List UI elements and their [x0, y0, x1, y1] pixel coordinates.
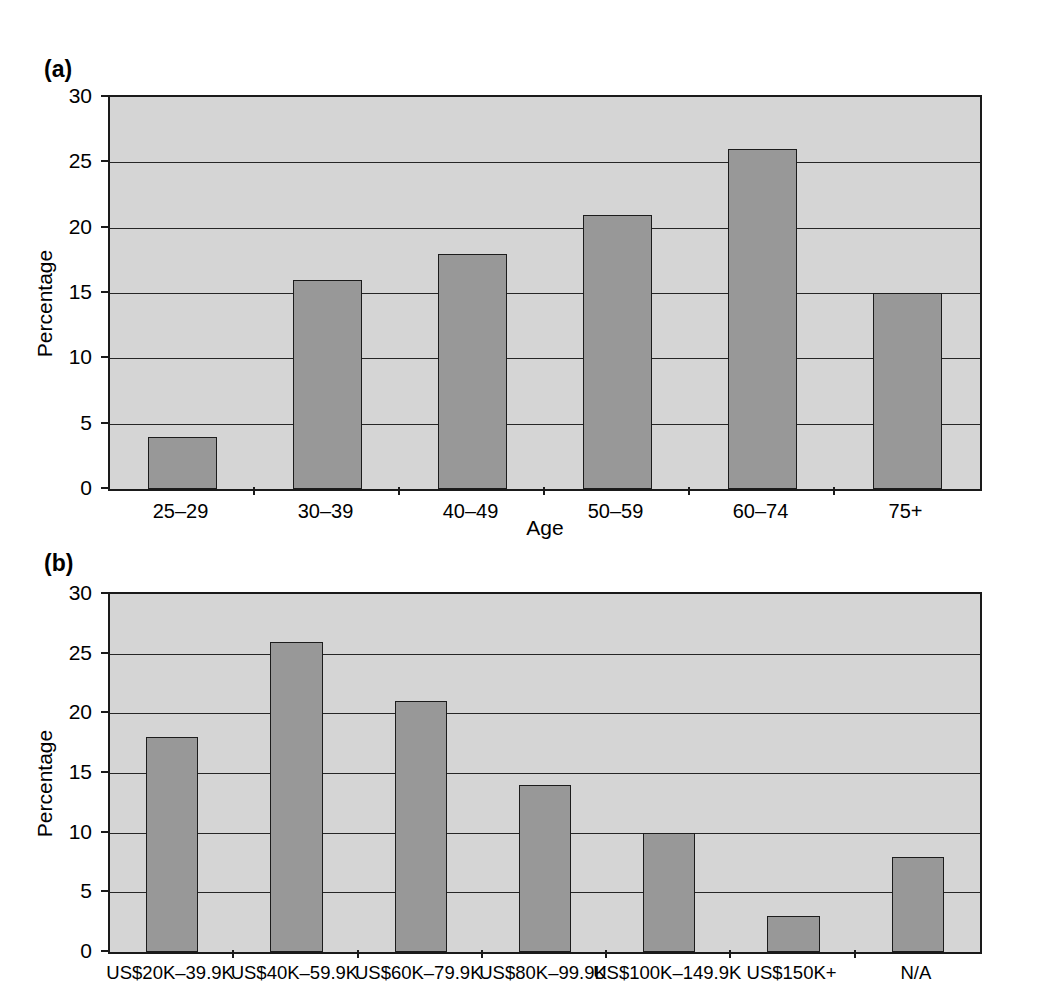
x-tick-label: US$100K–149.9K — [593, 964, 741, 983]
y-tick-label: 15 — [44, 281, 92, 302]
x-tick-mark — [481, 950, 483, 958]
y-tick-mark — [101, 831, 108, 833]
x-tick-label: 50–59 — [588, 501, 644, 521]
bar — [148, 437, 216, 489]
bar — [583, 215, 651, 489]
x-tick-mark — [688, 487, 690, 495]
x-tick-label: US$60K–79.9K — [355, 964, 483, 983]
bar — [293, 280, 361, 489]
y-tick-mark — [101, 356, 108, 358]
bar — [767, 916, 819, 952]
y-tick-label: 25 — [44, 150, 92, 171]
x-tick-mark — [398, 487, 400, 495]
y-tick-mark — [101, 291, 108, 293]
x-tick-mark — [232, 950, 234, 958]
x-tick-label: 30–39 — [298, 501, 354, 521]
y-tick-mark — [101, 950, 108, 952]
panel-a-label: (a) — [44, 58, 72, 81]
bar — [519, 785, 571, 952]
x-tick-label: US$20K–39.9K — [106, 964, 234, 983]
bar — [146, 737, 198, 952]
panel-b-bars — [110, 594, 980, 952]
y-tick-label: 15 — [44, 761, 92, 782]
x-tick-mark — [854, 950, 856, 958]
y-tick-mark — [101, 652, 108, 654]
y-tick-label: 25 — [44, 641, 92, 662]
x-tick-mark — [729, 950, 731, 958]
y-tick-mark — [101, 890, 108, 892]
y-tick-mark — [101, 592, 108, 594]
y-tick-label: 20 — [44, 701, 92, 722]
y-tick-mark — [101, 487, 108, 489]
y-tick-label: 5 — [44, 880, 92, 901]
y-tick-mark — [101, 95, 108, 97]
x-tick-label: 75+ — [889, 501, 923, 521]
x-tick-label: N/A — [900, 964, 931, 983]
panel-a: (a) Percentage Age 05101520253025–2930–3… — [0, 0, 1048, 555]
y-tick-label: 30 — [44, 85, 92, 106]
x-tick-label: 40–49 — [443, 501, 499, 521]
y-tick-label: 30 — [44, 582, 92, 603]
y-tick-mark — [101, 771, 108, 773]
bar — [270, 642, 322, 952]
bar — [438, 254, 506, 489]
panel-b: (b) Percentage 051015202530US$20K–39.9KU… — [0, 540, 1048, 986]
y-tick-label: 5 — [44, 411, 92, 432]
y-tick-label: 0 — [44, 940, 92, 961]
y-tick-label: 10 — [44, 346, 92, 367]
x-tick-label: US$80K–99.9K — [479, 964, 607, 983]
figure-bar-charts: (a) Percentage Age 05101520253025–2930–3… — [0, 0, 1048, 986]
x-tick-mark — [357, 950, 359, 958]
panel-a-plot-area — [108, 95, 982, 491]
x-tick-mark — [543, 487, 545, 495]
panel-a-bars — [110, 97, 980, 489]
x-tick-mark — [833, 487, 835, 495]
y-tick-mark — [101, 711, 108, 713]
x-tick-mark — [605, 950, 607, 958]
y-tick-label: 0 — [44, 477, 92, 498]
x-tick-mark — [253, 487, 255, 495]
y-tick-mark — [101, 160, 108, 162]
y-tick-mark — [101, 422, 108, 424]
x-tick-label: 25–29 — [153, 501, 209, 521]
panel-b-label: (b) — [44, 552, 73, 575]
bar — [643, 833, 695, 952]
x-tick-label: US$40K–59.9K — [231, 964, 359, 983]
bar — [395, 701, 447, 952]
bar — [728, 149, 796, 489]
y-tick-label: 20 — [44, 215, 92, 236]
panel-b-plot-area — [108, 592, 982, 954]
y-tick-label: 10 — [44, 820, 92, 841]
y-tick-mark — [101, 226, 108, 228]
bar — [873, 293, 941, 489]
x-tick-label: US$150K+ — [747, 964, 837, 983]
x-tick-label: 60–74 — [733, 501, 789, 521]
bar — [892, 857, 944, 952]
